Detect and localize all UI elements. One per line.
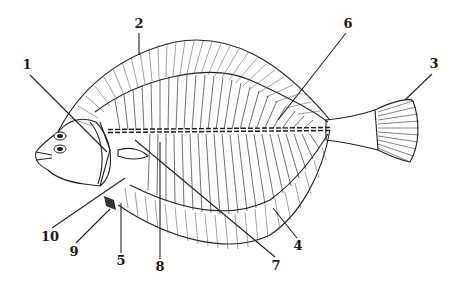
- head-outline: [36, 119, 111, 186]
- leader-3: [405, 74, 432, 100]
- pelvic-fin: [104, 196, 116, 210]
- leader-7: [135, 140, 275, 257]
- dorsal-fin-rays: [70, 41, 320, 126]
- label-5: 5: [116, 253, 125, 268]
- label-8: 8: [155, 259, 164, 274]
- label-4: 4: [293, 238, 302, 253]
- caudal-peduncle: [326, 110, 378, 150]
- dorsal-fin-outline: [58, 40, 330, 132]
- label-10: 10: [41, 229, 59, 244]
- pectoral-fin: [118, 148, 148, 159]
- anal-fin-rays: [125, 147, 326, 249]
- caudal-fin: [326, 100, 419, 162]
- leader-4: [273, 208, 297, 238]
- caudal-fin-outline: [375, 100, 418, 162]
- leader-6: [278, 33, 346, 120]
- labels: 1 2 3 4 5 6 7 8 9 10: [22, 16, 438, 274]
- label-2: 2: [134, 16, 143, 31]
- opercle: [90, 122, 102, 184]
- label-1: 1: [22, 57, 31, 72]
- label-7: 7: [271, 258, 280, 273]
- label-3: 3: [429, 56, 438, 71]
- vertebral-column: [108, 129, 330, 131]
- mouth: [36, 152, 52, 160]
- label-6: 6: [343, 16, 352, 31]
- leader-9: [76, 209, 110, 243]
- ventral-haemal-spines: [148, 134, 319, 214]
- label-9: 9: [69, 244, 78, 259]
- flatfish-skeleton-diagram: 1 2 3 4 5 6 7 8 9 10: [0, 0, 462, 292]
